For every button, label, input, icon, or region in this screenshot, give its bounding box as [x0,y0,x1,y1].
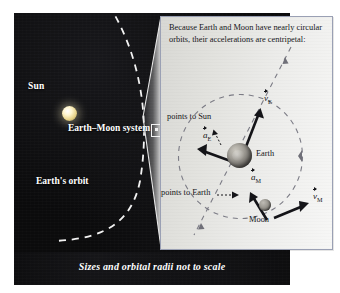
moon-label: Moon [249,215,269,224]
moon-icon [259,199,271,211]
sun-label: Sun [28,81,44,91]
acceleration-moon-subscript: M [256,177,262,184]
acceleration-earth-subscript: E [208,135,212,142]
path-arrowhead-top [283,57,289,64]
earth-orbit-label: Earth's orbit [36,176,89,186]
acceleration-moon-label: aM [251,172,261,184]
velocity-earth-label: vE [264,93,272,105]
points-to-sun-leader [215,133,221,145]
earth-label: Earth [256,149,274,158]
figure-root: Sun Earth–Moon system Earth's orbit Beca… [0,0,340,293]
velocity-moon-label: vM [313,191,323,203]
velocity-moon-arrowhead [299,201,309,212]
points-to-earth-leader-arrow [232,192,239,199]
inset-orbit-svg [161,17,332,249]
acceleration-earth-label: aE [203,130,211,142]
caption-bar: Sizes and orbital radii not to scale [14,252,290,285]
velocity-earth-symbol: v [264,93,268,103]
acceleration-earth-arrowhead [197,144,207,156]
points-to-sun-leader-arrow [212,130,218,136]
acceleration-moon-symbol: a [251,172,256,182]
acceleration-earth-symbol: a [203,130,208,140]
velocity-moon-symbol: v [313,191,317,201]
velocity-earth-subscript: E [268,98,272,105]
points-to-earth-label: points to Earth [161,188,210,197]
sun-icon [62,106,77,121]
velocity-moon-subscript: M [317,196,323,203]
marker-dot [155,128,158,131]
figure-caption: Sizes and orbital radii not to scale [14,261,290,272]
earth-moon-system-label: Earth–Moon system [68,123,150,133]
points-to-sun-label: points to Sun [167,112,211,121]
orbit-arrowhead-right [298,150,302,162]
inset-detail-panel: Because Earth and Moon have nearly circu… [160,16,333,250]
velocity-moon-vector-line [274,206,303,218]
earth-icon [227,143,252,168]
